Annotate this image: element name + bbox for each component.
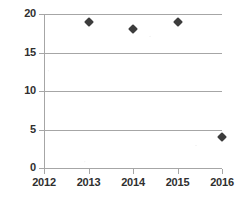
x-axis-label-2015: 2015 [155, 176, 201, 188]
y-axis-label-0: 0 [6, 162, 36, 173]
y-tick-10 [39, 91, 44, 92]
y-tick-5 [39, 130, 44, 131]
gridline-10 [44, 91, 222, 92]
y-tick-15 [39, 53, 44, 54]
x-tick-2015 [178, 169, 179, 174]
x-axis-label-2012: 2012 [21, 176, 67, 188]
data-point-2014 [128, 24, 138, 34]
plot-area [44, 14, 222, 168]
x-axis-label-2016: 2016 [199, 176, 242, 188]
x-axis-label-2014: 2014 [110, 176, 156, 188]
x-axis-label-2013: 2013 [66, 176, 112, 188]
y-axis-label-10: 10 [6, 85, 36, 96]
y-axis-label-5: 5 [6, 124, 36, 135]
gridline-5 [44, 130, 222, 131]
x-tick-2013 [89, 169, 90, 174]
y-axis-label-20: 20 [6, 8, 36, 19]
data-point-2016 [217, 132, 227, 142]
gridline-20 [44, 14, 222, 15]
scatter-chart: 20 15 10 5 0 2012 2013 2014 2015 2016 [0, 0, 242, 202]
y-axis-line [44, 14, 45, 169]
x-tick-2016 [222, 169, 223, 174]
y-axis-label-15: 15 [6, 47, 36, 58]
data-point-2015 [173, 17, 183, 27]
x-tick-2014 [133, 169, 134, 174]
gridline-15 [44, 53, 222, 54]
data-point-2013 [84, 17, 94, 27]
x-tick-2012 [44, 169, 45, 174]
y-tick-20 [39, 14, 44, 15]
